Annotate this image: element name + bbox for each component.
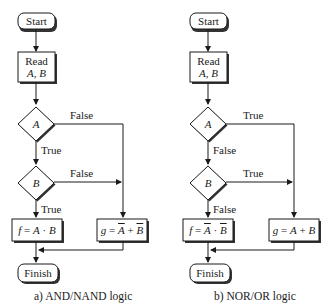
start-label-a: Start	[18, 15, 55, 27]
start-label-b: Start	[190, 15, 227, 27]
f-equation-b: f = A · B	[183, 224, 233, 236]
decision-a-down-label-b: False	[213, 145, 236, 156]
decision-b-right-label-b: True	[243, 168, 263, 179]
decision-a-var-b: A	[190, 118, 226, 130]
decision-a-down-label: True	[41, 145, 61, 156]
flowchart-a-shapes	[12, 13, 149, 284]
flowchart-b-shapes	[183, 13, 321, 284]
decision-a-right-label-b: True	[243, 110, 263, 121]
decision-b-down-label-b: False	[213, 204, 236, 215]
decision-b-down-label: True	[41, 204, 61, 215]
read-label-a: Read	[18, 55, 55, 67]
finish-label-b: Finish	[190, 267, 230, 279]
f-equation-a: f = A · B	[12, 224, 62, 236]
g-equation-b: g = A + B	[269, 224, 319, 236]
caption-b: b) NOR/OR logic	[214, 290, 296, 302]
decision-b-var-b: B	[190, 177, 226, 189]
finish-label-a: Finish	[18, 267, 58, 279]
decision-b-right-label: False	[70, 168, 93, 179]
read-label-b: Read	[190, 55, 227, 67]
read-vars-b: A, B	[190, 67, 227, 79]
decision-b-var: B	[18, 177, 54, 189]
caption-a: a) AND/NAND logic	[34, 290, 132, 302]
decision-a-right-label: False	[70, 110, 93, 121]
read-vars-a: A, B	[18, 67, 55, 79]
g-equation-a: g = A + B	[97, 224, 147, 236]
decision-a-var: A	[18, 118, 54, 130]
